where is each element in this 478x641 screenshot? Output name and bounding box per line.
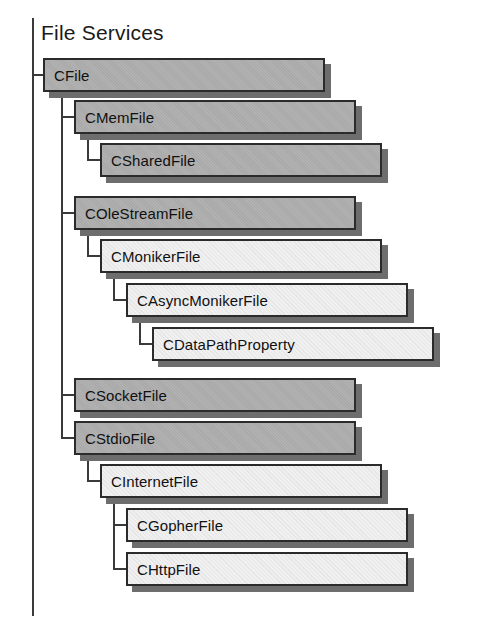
class-node-label: CMonikerFile (111, 248, 201, 265)
connector-cfile-trunk (61, 92, 63, 437)
class-node-cmonikerfile[interactable]: CMonikerFile (100, 239, 382, 273)
class-node-csharedfile[interactable]: CSharedFile (100, 143, 382, 177)
class-node-label: CHttpFile (137, 561, 200, 578)
class-node-label: CStdioFile (85, 430, 155, 447)
class-node-csocketfile[interactable]: CSocketFile (74, 378, 356, 412)
root-spine-line (32, 18, 34, 616)
class-node-cfile[interactable]: CFile (43, 58, 325, 92)
class-node-cdatapathproperty[interactable]: CDataPathProperty (152, 327, 434, 361)
class-node-label: CGopherFile (137, 517, 223, 534)
class-node-label: CMemFile (85, 109, 154, 126)
class-node-cgopherfile[interactable]: CGopherFile (126, 508, 408, 542)
class-node-label: CAsyncMonikerFile (137, 292, 268, 309)
class-node-chttpfile[interactable]: CHttpFile (126, 552, 408, 586)
class-node-label: CFile (54, 67, 90, 84)
class-node-casyncmonikerfile[interactable]: CAsyncMonikerFile (126, 283, 408, 317)
class-node-label: CInternetFile (111, 473, 198, 490)
class-node-label: CSharedFile (111, 152, 195, 169)
class-node-cinternetfile[interactable]: CInternetFile (100, 464, 382, 498)
connector-cinternetfile-trunk (113, 498, 115, 569)
class-node-label: CDataPathProperty (163, 336, 295, 353)
diagram-title: File Services (41, 22, 164, 43)
class-node-label: CSocketFile (85, 387, 167, 404)
class-hierarchy-diagram: File Services CFileCMemFileCSharedFileCO… (0, 0, 478, 641)
class-node-label: COleStreamFile (85, 205, 193, 222)
class-node-cstdiofile[interactable]: CStdioFile (74, 421, 356, 455)
class-node-colestreamfile[interactable]: COleStreamFile (74, 196, 356, 230)
class-node-cmemfile[interactable]: CMemFile (74, 100, 356, 134)
